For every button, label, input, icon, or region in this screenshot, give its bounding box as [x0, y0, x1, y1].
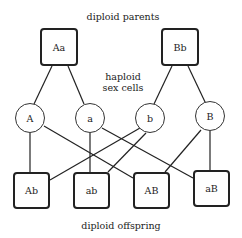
gamete-node-B: B	[195, 101, 225, 131]
haploid-label: haploid	[98, 71, 148, 82]
node-label: b	[147, 113, 153, 124]
offspring-node-AB: AB	[133, 172, 170, 209]
diploid-offspring-label: diploid offspring	[76, 220, 166, 231]
offspring-node-ab: ab	[73, 172, 110, 209]
parent-node-Bb: Bb	[161, 28, 199, 66]
node-label: a	[87, 113, 93, 124]
offspring-node-Ab: Ab	[13, 172, 50, 209]
offspring-node-aB: aB	[193, 170, 230, 207]
diploid-parents-label: diploid parents	[80, 11, 166, 22]
node-label: Bb	[173, 42, 186, 53]
node-label: B	[207, 111, 214, 122]
parent-node-Aa: Aa	[40, 28, 78, 66]
node-label: Aa	[53, 42, 66, 53]
gamete-node-b: b	[135, 103, 165, 133]
gamete-node-A: A	[15, 103, 45, 133]
gamete-node-a: a	[75, 103, 105, 133]
sex-cells-label: sex cells	[98, 82, 148, 93]
node-label: Ab	[25, 185, 38, 196]
node-label: ab	[86, 185, 98, 196]
node-label: aB	[205, 183, 218, 194]
node-label: A	[27, 113, 34, 124]
node-label: AB	[145, 185, 159, 196]
